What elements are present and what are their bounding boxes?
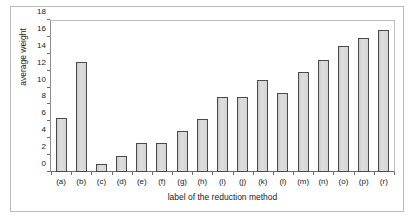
bar — [197, 119, 208, 172]
bar-slot — [354, 20, 374, 172]
x-axis-tick-cell — [71, 172, 91, 176]
y-axis-tick-label: 2 — [30, 143, 46, 151]
x-axis-tick-mark — [394, 172, 395, 175]
y-axis-title: average weight — [18, 12, 28, 102]
bar-slot — [112, 20, 132, 172]
x-axis-tick-mark — [192, 172, 193, 175]
x-axis-tick-label: (h) — [192, 177, 212, 186]
bar-slot — [313, 20, 333, 172]
x-axis-tick-cell — [354, 172, 374, 176]
y-axis-tick-label: 16 — [30, 25, 46, 33]
y-axis-tick-label: 14 — [30, 42, 46, 50]
x-axis-tick-mark — [333, 172, 334, 175]
x-axis-tick-cell — [132, 172, 152, 176]
bar-slot — [293, 20, 313, 172]
x-axis-tick-label: (g) — [172, 177, 192, 186]
x-axis-title: label of the reduction method — [50, 192, 395, 202]
x-axis-tick-cell — [192, 172, 212, 176]
bar — [96, 164, 107, 172]
bar-slot — [152, 20, 172, 172]
y-axis-tick-label: 12 — [30, 59, 46, 67]
bar-slot — [51, 20, 71, 172]
x-axis-tick-mark — [112, 172, 113, 175]
x-axis-tick-label: (m) — [293, 177, 313, 186]
bar — [318, 60, 329, 172]
bar — [56, 118, 67, 172]
bar — [378, 30, 389, 172]
x-axis-tick-mark — [212, 172, 213, 175]
bar — [298, 72, 309, 172]
x-axis-tick-label: (j) — [233, 177, 253, 186]
x-axis-tick-label: (d) — [112, 177, 132, 186]
bar — [76, 62, 87, 172]
x-axis-tick-label: (o) — [333, 177, 353, 186]
bar-slot — [212, 20, 232, 172]
bar-series — [51, 20, 394, 172]
y-axis-tick-label: 0 — [30, 160, 46, 168]
bar-slot — [253, 20, 273, 172]
x-axis-tick-cell — [212, 172, 232, 176]
x-axis-tick-label: (f) — [152, 177, 172, 186]
bar — [277, 93, 288, 172]
x-axis-tick-mark — [374, 172, 375, 175]
x-axis-tick-cell — [313, 172, 333, 176]
bar-slot — [91, 20, 111, 172]
x-axis-tick-label: (c) — [91, 177, 111, 186]
bar-slot — [233, 20, 253, 172]
bar — [338, 46, 349, 172]
x-axis-tick-cell — [112, 172, 132, 176]
x-axis-tick-cell — [273, 172, 293, 176]
x-axis-tick-mark — [71, 172, 72, 175]
x-axis-tick-mark — [253, 172, 254, 175]
bar — [136, 143, 147, 172]
x-axis-tick-cell — [293, 172, 313, 176]
bar-slot — [132, 20, 152, 172]
x-axis-tick-marks — [51, 172, 394, 176]
y-axis-tick-label: 4 — [30, 126, 46, 134]
y-axis-tick-label: 18 — [30, 8, 46, 16]
x-axis-tick-cell — [152, 172, 172, 176]
chart-figure: average weight 024681012141618 (a)(b)(c)… — [0, 0, 415, 224]
bar — [116, 156, 127, 172]
bar-slot — [172, 20, 192, 172]
x-axis-tick-mark — [91, 172, 92, 175]
x-axis-tick-cell — [172, 172, 192, 176]
x-axis-tick-cell — [253, 172, 273, 176]
x-axis-tick-mark — [152, 172, 153, 175]
x-axis-tick-label: (r) — [374, 177, 394, 186]
bar — [156, 143, 167, 172]
x-axis-tick-mark — [51, 172, 52, 175]
bar-slot — [333, 20, 353, 172]
bar — [217, 97, 228, 172]
bar-slot — [374, 20, 394, 172]
x-axis-tick-label: (a) — [51, 177, 71, 186]
x-axis-tick-label: (p) — [354, 177, 374, 186]
x-axis-tick-label: (k) — [253, 177, 273, 186]
x-axis-tick-label: (b) — [71, 177, 91, 186]
y-axis-tick-label: 6 — [30, 109, 46, 117]
y-axis-tick-label: 10 — [30, 76, 46, 84]
x-axis-tick-label: (e) — [132, 177, 152, 186]
x-axis-tick-cell — [91, 172, 111, 176]
bar — [237, 97, 248, 172]
x-axis-tick-mark — [354, 172, 355, 175]
x-axis-tick-cell — [233, 172, 253, 176]
x-axis-tick-mark — [313, 172, 314, 175]
bar-slot — [273, 20, 293, 172]
x-axis-tick-mark — [132, 172, 133, 175]
bar-slot — [192, 20, 212, 172]
x-axis-tick-cell — [51, 172, 71, 176]
x-axis-tick-cell — [333, 172, 353, 176]
y-axis-tick-labels: 024681012141618 — [28, 20, 46, 172]
x-axis-tick-mark — [293, 172, 294, 175]
x-axis-tick-cell — [374, 172, 394, 176]
y-axis-tick-label: 8 — [30, 92, 46, 100]
x-axis-tick-label: (l) — [273, 177, 293, 186]
x-axis-tick-label: (i) — [212, 177, 232, 186]
bar-slot — [71, 20, 91, 172]
x-axis-tick-mark — [233, 172, 234, 175]
bar — [177, 131, 188, 172]
bar — [257, 80, 268, 172]
x-axis-tick-labels: (a)(b)(c)(d)(e)(f)(g)(h)(i)(j)(k)(l)(m)(… — [51, 177, 394, 186]
x-axis-tick-label: (n) — [313, 177, 333, 186]
